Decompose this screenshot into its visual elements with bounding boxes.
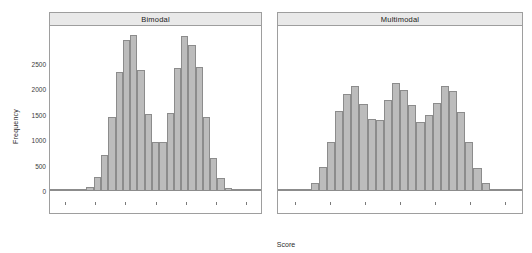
histogram-bar — [327, 142, 335, 191]
histogram-bar — [351, 86, 359, 191]
histogram-bars-multimodal — [278, 30, 522, 191]
x-axis-tick-mark — [505, 202, 506, 205]
x-axis-tick-mark — [95, 202, 96, 205]
histogram-bar — [416, 122, 424, 191]
panel-title-multimodal: Multimodal — [381, 15, 419, 24]
panel-multimodal: Multimodal — [277, 12, 523, 214]
histogram-bar — [425, 115, 433, 191]
histogram-bar — [400, 90, 408, 191]
histogram-bar — [441, 86, 449, 191]
x-axis-label: Score — [49, 233, 523, 251]
histogram-bar — [137, 70, 144, 191]
histogram-bar — [203, 117, 210, 191]
histogram-bar — [152, 142, 159, 191]
histogram-bar — [465, 142, 473, 191]
x-axis-label-text: Score — [277, 241, 295, 248]
histogram-bar — [108, 117, 115, 191]
histogram-bar — [376, 120, 384, 191]
histogram-bar — [210, 158, 217, 191]
histogram-bar — [116, 72, 123, 191]
histogram-bar — [392, 83, 400, 191]
histogram-bar — [145, 114, 152, 191]
histogram-bar — [130, 35, 137, 191]
histogram-bar — [335, 111, 343, 192]
histogram-figure: Frequency 05001000150020002500 Bimodal M… — [0, 0, 532, 253]
histogram-bar — [368, 119, 376, 191]
histogram-bar — [196, 67, 203, 191]
histogram-bar — [408, 105, 416, 191]
histogram-bar — [384, 100, 392, 191]
y-axis-tick-label: 500 — [35, 162, 46, 169]
y-axis-tick-label: 2500 — [32, 60, 46, 67]
x-axis-tick-mark — [125, 202, 126, 205]
y-axis-tick-label: 2000 — [32, 86, 46, 93]
histogram-bar — [359, 104, 367, 191]
histogram-bar — [101, 155, 108, 191]
histogram-bar — [449, 91, 457, 191]
y-axis-tick-label: 1500 — [32, 111, 46, 118]
panel-title-bimodal: Bimodal — [141, 15, 170, 24]
x-axis-tick-mark — [365, 202, 366, 205]
y-axis-tick-label: 0 — [42, 188, 46, 195]
x-axis-tick-mark — [400, 202, 401, 205]
histogram-bar — [343, 94, 351, 191]
x-axis-tick-mark — [470, 202, 471, 205]
x-axis-tick-mark — [330, 202, 331, 205]
x-axis-tick-mark — [246, 202, 247, 205]
x-axis-tick-mark — [435, 202, 436, 205]
x-axis-tick-mark — [65, 202, 66, 205]
histogram-bar — [181, 36, 188, 191]
x-axis-tick-mark — [295, 202, 296, 205]
plot-area-multimodal — [277, 26, 523, 214]
x-axis-tick-mark — [156, 202, 157, 205]
histogram-bar — [457, 112, 465, 191]
y-axis: 05001000150020002500 — [18, 18, 46, 213]
x-axis-ticks-bimodal — [50, 191, 261, 213]
histogram-bar — [159, 142, 166, 191]
histogram-bar — [473, 168, 481, 191]
panel-strip-bimodal: Bimodal — [49, 12, 262, 26]
histogram-bar — [174, 68, 181, 191]
histogram-bars-bimodal — [50, 30, 261, 191]
histogram-bar — [123, 40, 130, 191]
histogram-bar — [167, 113, 174, 191]
histogram-bar — [94, 177, 101, 191]
x-axis-tick-mark — [186, 202, 187, 205]
x-axis-ticks-multimodal — [278, 191, 522, 213]
histogram-bar — [188, 45, 195, 192]
plot-area-bimodal — [49, 26, 262, 214]
x-axis-tick-mark — [216, 202, 217, 205]
panel-strip-multimodal: Multimodal — [277, 12, 523, 26]
histogram-bar — [433, 103, 441, 191]
y-axis-tick-label: 1000 — [32, 137, 46, 144]
histogram-bar — [319, 167, 327, 191]
panel-bimodal: Bimodal — [49, 12, 262, 214]
